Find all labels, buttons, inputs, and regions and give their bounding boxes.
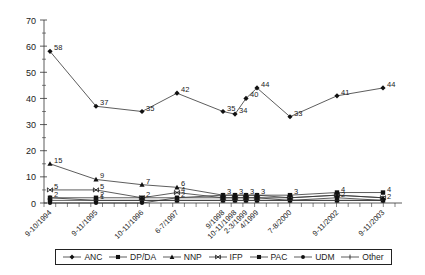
svg-text:33: 33 — [294, 109, 302, 118]
legend-item-pac: PAC — [250, 252, 288, 262]
svg-text:1: 1 — [100, 192, 104, 201]
svg-text:9-11/2002: 9-11/2002 — [311, 208, 341, 238]
legend-item-nnp: NNP — [163, 252, 202, 262]
svg-text:2: 2 — [387, 192, 391, 201]
svg-text:58: 58 — [54, 43, 62, 52]
svg-text:60: 60 — [26, 42, 36, 52]
svg-text:20: 20 — [26, 146, 36, 156]
square-marker-icon — [250, 253, 268, 261]
svg-text:34: 34 — [239, 106, 247, 115]
svg-text:9-11/2003: 9-11/2003 — [357, 208, 387, 238]
svg-text:0: 0 — [31, 199, 36, 209]
square-marker-icon — [109, 253, 127, 261]
svg-text:3: 3 — [261, 187, 265, 196]
legend-label: PAC — [271, 252, 288, 262]
svg-text:44: 44 — [387, 80, 395, 89]
legend-item-other: Other — [341, 252, 383, 262]
svg-text:70: 70 — [26, 16, 36, 26]
svg-text:3: 3 — [239, 187, 243, 196]
svg-text:9-11/1995: 9-11/1995 — [70, 208, 100, 238]
svg-text:42: 42 — [181, 85, 189, 94]
svg-text:10-11/1996: 10-11/1996 — [113, 208, 146, 241]
circle-marker-icon — [294, 253, 312, 261]
svg-text:10: 10 — [26, 172, 36, 182]
legend-item-anc: ANC — [63, 252, 102, 262]
svg-text:3: 3 — [294, 187, 298, 196]
svg-text:37: 37 — [100, 98, 108, 107]
legend-item-udm: UDM — [294, 252, 334, 262]
svg-text:2: 2 — [54, 190, 58, 199]
legend-label: UDM — [315, 252, 334, 262]
svg-text:35: 35 — [227, 104, 235, 113]
bowtie-marker-icon — [209, 253, 227, 261]
line-chart: 0102030405060709-10/19949-11/199510-11/1… — [0, 0, 425, 275]
tick-marker-icon — [341, 253, 359, 261]
legend-item-ifp: IFP — [209, 252, 243, 262]
svg-text:35: 35 — [146, 104, 154, 113]
svg-text:7: 7 — [146, 177, 150, 186]
chart-axes: 0102030405060709-10/19949-11/199510-11/1… — [23, 16, 402, 241]
svg-text:2: 2 — [181, 190, 185, 199]
series-anc — [47, 49, 385, 120]
svg-text:40: 40 — [250, 90, 258, 99]
svg-text:3: 3 — [250, 187, 254, 196]
legend-label: NNP — [184, 252, 202, 262]
legend-label: Other — [362, 252, 383, 262]
svg-text:6-7/1997: 6-7/1997 — [153, 208, 180, 235]
svg-text:9-10/1994: 9-10/1994 — [23, 208, 53, 238]
svg-text:2: 2 — [341, 190, 345, 199]
svg-text:9: 9 — [100, 171, 104, 180]
svg-text:30: 30 — [26, 120, 36, 130]
legend-label: IFP — [230, 252, 243, 262]
data-labels: 5837354235344044334144159765524222333334… — [54, 43, 395, 201]
chart-legend: ANC DP/DA NNP IFP PAC UDM Other — [55, 249, 392, 265]
legend-label: DP/DA — [130, 252, 156, 262]
triangle-marker-icon — [163, 253, 181, 261]
svg-text:3: 3 — [227, 187, 231, 196]
svg-text:15: 15 — [54, 156, 62, 165]
svg-text:7-8/2000: 7-8/2000 — [266, 208, 293, 235]
svg-text:50: 50 — [26, 68, 36, 78]
chart-series — [47, 49, 385, 205]
diamond-marker-icon — [63, 253, 81, 261]
svg-text:41: 41 — [341, 88, 349, 97]
svg-text:40: 40 — [26, 94, 36, 104]
legend-label: ANC — [84, 252, 102, 262]
legend-item-dpda: DP/DA — [109, 252, 156, 262]
svg-text:44: 44 — [261, 80, 269, 89]
svg-text:2: 2 — [146, 190, 150, 199]
